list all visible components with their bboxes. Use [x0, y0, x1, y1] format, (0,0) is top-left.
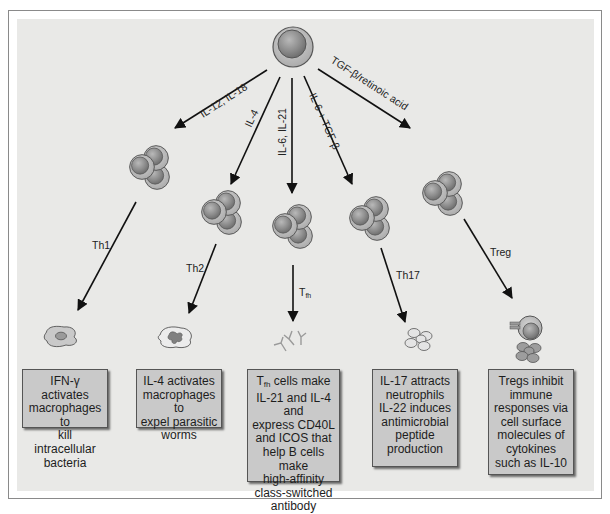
th2-cell-cluster-icon	[202, 191, 242, 235]
th2-description-line: macrophages to	[140, 389, 218, 416]
th17-description-line: neutrophils	[376, 389, 454, 403]
tfh-cell-cluster-icon	[273, 205, 313, 249]
tfh-description-box: Tfh cells make IL-21 and IL-4 and expres…	[247, 369, 340, 482]
th17-description-line: antimicrobial	[376, 416, 454, 430]
tfh-description-line: and ICOS that	[251, 432, 336, 446]
th2-description-line: expel parasitic	[140, 416, 218, 430]
th2-description-line: worms	[140, 429, 218, 443]
th1-description-line: macrophages to	[26, 402, 104, 429]
th17-description-line: IL-22 induces	[376, 402, 454, 416]
treg-description-line: cell surface	[492, 416, 570, 430]
treg-description-box: Tregs inhibit immune responses via cell …	[488, 369, 574, 475]
eosinophil-macrophage-icon	[158, 327, 191, 348]
tfh-description-line: high-affinity	[251, 473, 336, 487]
th17-description-line: production	[376, 443, 454, 457]
tfh-description-line: express CD40L	[251, 419, 336, 433]
subset-label-th2: Th2	[186, 262, 204, 274]
tfh-description-line: antibody	[251, 500, 336, 514]
th17-cell-cluster-icon	[350, 197, 390, 241]
th17-description-box: IL-17 attracts neutrophils IL-22 induces…	[372, 369, 458, 467]
th17-description-line: IL-17 attracts	[376, 375, 454, 389]
cytokine-label-tfh: IL-6, IL-21	[276, 108, 288, 156]
th1-description-box: IFN-γ activates macrophages to kill intr…	[22, 369, 108, 428]
subset-label-treg: Treg	[490, 246, 511, 258]
treg-description-line: Tregs inhibit	[492, 375, 570, 389]
th1-description-line: kill intracellular	[26, 429, 104, 456]
th1-description-line: IFN-γ activates	[26, 375, 104, 402]
tfh-description-line: Tfh cells make	[251, 375, 336, 392]
treg-cell-cluster-icon	[423, 172, 463, 216]
subset-label-tfh: Tfh	[299, 286, 311, 299]
treg-description-line: molecules of	[492, 429, 570, 443]
cytokine-label-th17: IL-6 + TGF-β	[307, 91, 343, 151]
subset-label-th1: Th1	[92, 239, 110, 251]
naive-t-cell-icon	[273, 27, 313, 67]
suppressed-cell-icon	[510, 316, 542, 363]
activated-macrophage-icon	[44, 326, 76, 346]
th17-description-line: peptide	[376, 429, 454, 443]
th2-description-line: IL-4 activates	[140, 375, 218, 389]
treg-description-line: cytokines	[492, 443, 570, 457]
antibody-icon	[274, 331, 306, 351]
th2-description-box: IL-4 activates macrophages to expel para…	[136, 369, 222, 428]
tfh-description-line: class-switched	[251, 487, 336, 501]
cytokine-label-th1: IL-12, IL-18	[198, 80, 250, 119]
subset-label-th17: Th17	[396, 269, 420, 281]
treg-description-line: immune	[492, 389, 570, 403]
th1-description-line: bacteria	[26, 457, 104, 471]
treg-description-line: responses via	[492, 402, 570, 416]
treg-description-line: such as IL-10	[492, 457, 570, 471]
neutrophil-cluster-icon	[405, 329, 432, 351]
tfh-description-line: IL-21 and IL-4 and	[251, 392, 336, 419]
tfh-description-line: help B cells make	[251, 446, 336, 473]
th1-cell-cluster-icon	[130, 146, 170, 190]
